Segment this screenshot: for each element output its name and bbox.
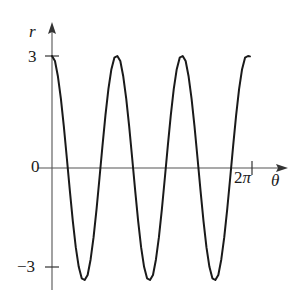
plot-canvas	[0, 0, 296, 294]
x-axis-label: θ	[271, 172, 279, 189]
x-tick-label-2pi: 2π	[234, 169, 251, 186]
x-tick-label-2pi-symbol: π	[243, 168, 252, 187]
y-tick-label-0: 0	[31, 158, 40, 175]
y-tick-label-neg3: −3	[17, 258, 35, 275]
y-axis-label: r	[29, 23, 36, 40]
y-tick-label-3: 3	[28, 48, 37, 65]
x-tick-label-2pi-number: 2	[234, 168, 243, 187]
polar-function-graph-figure: r θ 3 0 −3 2π	[0, 0, 296, 294]
